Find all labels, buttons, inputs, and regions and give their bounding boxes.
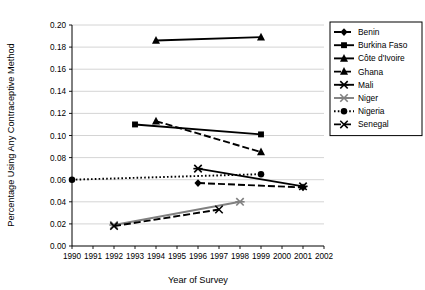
y-tick-label: 0.12 [50, 109, 66, 118]
x-tick-label: 1993 [126, 252, 145, 261]
data-point-marker [235, 198, 244, 205]
series-line [156, 37, 261, 40]
x-tick-label: 2002 [315, 252, 334, 261]
legend-label: Senegal [358, 119, 389, 129]
series-nigeria [69, 171, 265, 183]
x-tick-label: 1995 [168, 252, 187, 261]
data-point-marker [194, 179, 201, 187]
chart-legend: BeninBurkina FasoCôte d'IvoireGhanaMaliN… [330, 22, 422, 136]
chart-figure: 0.000.020.040.060.080.100.120.140.160.18… [0, 0, 425, 290]
x-tick-label: 2000 [273, 252, 292, 261]
gridlines [72, 25, 324, 224]
series-line [114, 202, 240, 225]
data-point-marker [69, 176, 76, 183]
x-tick-label: 1997 [210, 252, 229, 261]
data-point-marker [258, 131, 264, 137]
y-tick-label: 0.04 [50, 198, 66, 207]
data-point-marker [341, 108, 348, 115]
series-burkina-faso [132, 122, 264, 138]
y-tick-label: 0.20 [50, 21, 66, 30]
x-tick-label: 1994 [147, 252, 166, 261]
x-tick-label: 1998 [231, 252, 250, 261]
data-point-marker [193, 165, 202, 172]
y-tick-label: 0.02 [50, 220, 66, 229]
series-line [72, 174, 261, 180]
data-series [69, 33, 308, 230]
legend-label: Nigeria [358, 106, 385, 116]
series-c-te-d-ivoire [152, 33, 265, 44]
y-tick-label: 0.06 [50, 176, 66, 185]
data-point-marker [258, 171, 265, 178]
series-benin [194, 179, 306, 191]
legend-label: Burkina Faso [358, 40, 408, 50]
legend-label: Niger [358, 93, 378, 103]
data-point-marker [152, 117, 160, 125]
y-tick-label: 0.10 [50, 132, 66, 141]
x-axis-label: Year of Survey [168, 275, 228, 285]
x-tick-label: 1992 [105, 252, 124, 261]
x-tick-label: 1990 [63, 252, 82, 261]
x-tick-label: 1999 [252, 252, 271, 261]
y-axis-label: Percentage Using Any Contraceptive Metho… [6, 43, 16, 226]
legend-label: Ghana [358, 67, 383, 77]
y-tick-label: 0.16 [50, 65, 66, 74]
y-tick-label: 0.14 [50, 87, 66, 96]
series-ghana [152, 117, 265, 156]
y-tick-label: 0.18 [50, 43, 66, 52]
series-line [156, 121, 261, 152]
data-point-marker [341, 42, 347, 48]
line-chart: 0.000.020.040.060.080.100.120.140.160.18… [0, 0, 425, 290]
x-axis-ticks: 1990199119921993199419951996199719981999… [63, 246, 334, 261]
y-tick-label: 0.08 [50, 154, 66, 163]
series-senegal [110, 206, 222, 230]
y-axis-ticks: 0.000.020.040.060.080.100.120.140.160.18… [50, 21, 72, 251]
legend-label: Mali [358, 80, 373, 90]
y-tick-label: 0.00 [50, 242, 66, 251]
legend-label: Benin [358, 27, 380, 37]
x-tick-label: 1996 [189, 252, 208, 261]
x-tick-label: 2001 [294, 252, 313, 261]
x-tick-label: 1991 [84, 252, 103, 261]
legend-label: Côte d'Ivoire [358, 53, 405, 63]
data-point-marker [132, 122, 138, 128]
